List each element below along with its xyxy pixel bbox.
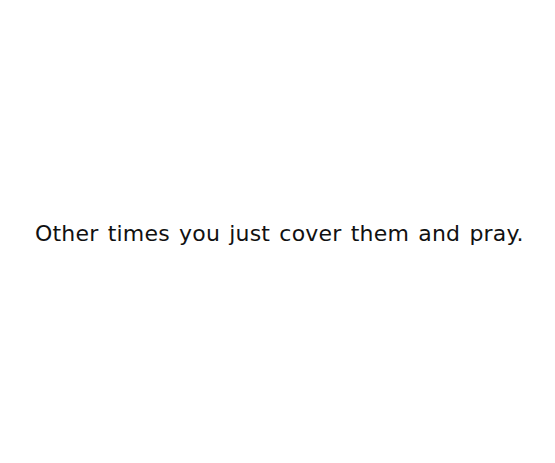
caption-text: Other times you just cover them and pray… xyxy=(35,218,545,250)
page: Other times you just cover them and pray… xyxy=(0,0,555,463)
